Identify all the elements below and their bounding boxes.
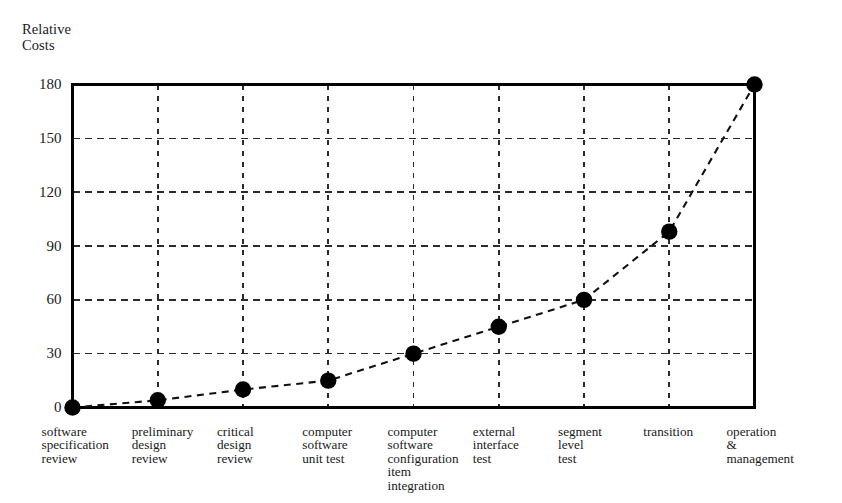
y-axis-tick-label: 30 (16, 346, 62, 361)
y-axis-tick-label: 90 (16, 239, 62, 254)
x-axis-tick-label: operation & management (727, 425, 823, 465)
y-axis-tick-label: 0 (16, 400, 62, 415)
x-axis-tick-label: external interface test (473, 425, 569, 465)
x-axis-tick-label: computer software configuration item int… (388, 425, 484, 492)
x-axis-tick-label: segment level test (558, 425, 654, 465)
x-axis-tick-label: computer software unit test (302, 425, 398, 465)
y-axis-tick-label: 60 (16, 292, 62, 307)
x-axis-tick-label: software specification review (42, 425, 138, 465)
y-axis-tick-label: 150 (16, 131, 62, 146)
x-axis-tick-label: critical design review (217, 425, 313, 465)
x-axis-tick-label: preliminary design review (132, 425, 228, 465)
y-axis-tick-label: 180 (16, 77, 62, 92)
x-axis-tick-label: transition (643, 425, 739, 438)
y-axis-tick-label: 120 (16, 185, 62, 200)
relative-costs-chart: Relative Costs 0306090120150180 software… (0, 0, 842, 503)
